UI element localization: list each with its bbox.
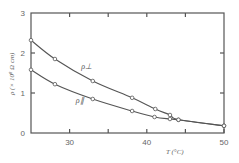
x-axis-label: T (°C) [166,148,184,156]
y-tick-label: 3 [21,9,26,18]
data-point-marker [168,117,172,121]
data-point-marker [53,57,57,61]
y-tick-label: 2 [21,49,26,58]
curve-labels: ρ⊥ρ∥ [75,62,92,105]
plot-frame [31,13,224,133]
data-point-marker [222,124,226,128]
data-point-marker [91,79,95,83]
data-point-marker [130,96,134,100]
data-point-marker [168,113,172,117]
data-series [29,38,226,127]
series-line [31,70,224,126]
data-point-marker [29,38,33,42]
x-tick-label: 30 [65,138,74,147]
x-tick-label: 40 [142,138,151,147]
curve-label: ρ∥ [75,96,85,105]
data-point-marker [91,97,95,101]
data-point-marker [153,107,157,111]
curve-label: ρ⊥ [80,62,92,71]
y-tick-label: 0 [21,129,26,138]
data-point-marker [153,115,157,119]
series-line [31,40,224,126]
y-axis-label: ρ (× 10⁸ Ω cm) [8,52,16,96]
data-point-marker [29,68,33,72]
data-point-marker [177,118,181,122]
y-axis-ticks: 0123 [21,9,224,138]
data-point-marker [53,82,57,86]
data-point-marker [130,109,134,113]
y-tick-label: 1 [21,89,26,98]
chart: 304050 0123 ρ⊥ρ∥ T (°C) ρ (× 10⁸ Ω cm) [0,0,239,163]
x-tick-label: 50 [220,138,229,147]
